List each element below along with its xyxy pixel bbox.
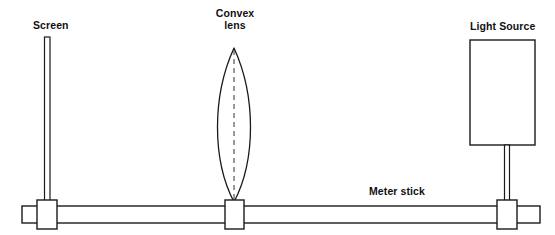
convex-lens-label-line1: Convex — [216, 7, 255, 19]
lens-holder-block — [225, 200, 244, 229]
light-source-box — [470, 40, 535, 145]
light-source-holder-block — [497, 200, 517, 229]
light-source-stem — [505, 145, 510, 206]
optics-diagram: Screen Convexlens Light Source Meter sti… — [0, 0, 555, 235]
light-source-label: Light Source — [470, 21, 535, 33]
meter-stick — [22, 206, 540, 223]
diagram-canvas — [0, 0, 555, 235]
screen — [45, 37, 51, 207]
meter-stick-label: Meter stick — [369, 186, 425, 198]
screen-holder-block — [37, 200, 57, 229]
convex-lens-label-line2: lens — [224, 19, 245, 31]
screen-label: Screen — [33, 20, 69, 32]
convex-lens-label: Convexlens — [205, 8, 265, 31]
